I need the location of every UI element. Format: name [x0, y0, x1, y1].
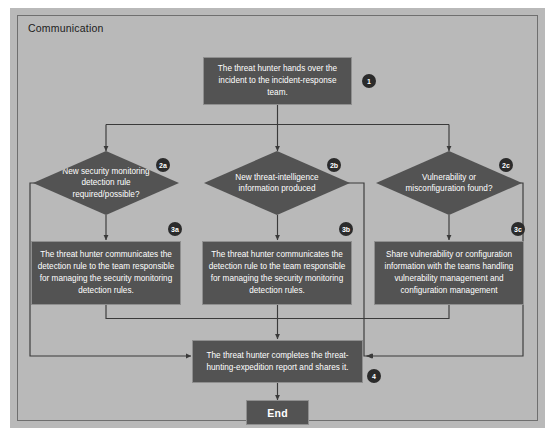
- badge-step-3a: 3a: [168, 222, 182, 236]
- node-end-terminal[interactable]: End: [246, 400, 309, 425]
- node-step-3a[interactable]: The threat hunter communicates the detec…: [31, 241, 181, 305]
- node-step-3b-text: The threat hunter communicates the detec…: [208, 249, 346, 297]
- node-step-3c[interactable]: Share vulnerability or configuration inf…: [374, 241, 524, 305]
- badge-step-4: 4: [367, 369, 381, 383]
- node-step-3a-text: The threat hunter communicates the detec…: [37, 249, 175, 297]
- node-step-3c-text: Share vulnerability or configuration inf…: [380, 249, 518, 297]
- swimlane-title: Communication: [28, 22, 104, 34]
- node-decision-2c-text: Vulnerability or misconfiguration found?: [398, 172, 500, 195]
- node-step-3b[interactable]: The threat hunter communicates the detec…: [202, 241, 352, 305]
- node-step-4[interactable]: The threat hunter completes the threat-h…: [192, 340, 363, 383]
- badge-decision-2b: 2b: [327, 158, 341, 172]
- node-decision-2b-text: New threat-intelligence information prod…: [226, 172, 328, 195]
- node-decision-2a-text: New security monitoring detection rule r…: [55, 166, 157, 200]
- node-step-1[interactable]: The threat hunter hands over the inciden…: [203, 57, 352, 105]
- badge-decision-2a: 2a: [156, 158, 170, 172]
- node-step-4-text: The threat hunter completes the threat-h…: [198, 350, 357, 374]
- node-end-terminal-text: End: [267, 407, 288, 419]
- badge-step-3b: 3b: [339, 222, 353, 236]
- badge-step-1: 1: [362, 74, 376, 88]
- badge-decision-2c: 2c: [499, 158, 513, 172]
- badge-step-3c: 3c: [511, 222, 525, 236]
- flowchart-diagram: Communication: [0, 0, 555, 444]
- node-step-1-text: The threat hunter hands over the inciden…: [209, 63, 346, 99]
